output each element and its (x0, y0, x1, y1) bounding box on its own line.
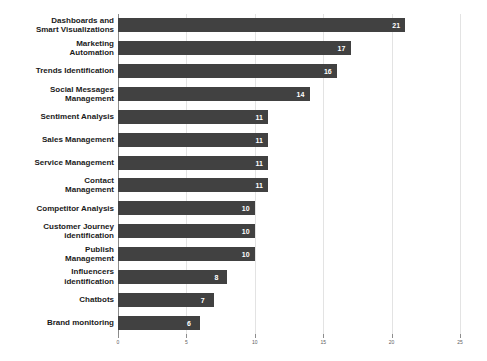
horizontal-bar-chart: 0510152025 Dashboards andSmart Visualiza… (0, 0, 487, 361)
category-label-line: Dashboards and (2, 16, 114, 26)
category-label: Customer Journeyidentification (2, 222, 114, 241)
bar (118, 224, 255, 238)
bar-value-label: 7 (201, 296, 205, 303)
bar-row: 7 (118, 293, 460, 307)
category-label-line: Customer Journey (2, 222, 114, 232)
bar-row: 11 (118, 110, 460, 124)
category-label: Influencersidentification (2, 267, 114, 286)
bar (118, 110, 268, 124)
x-axis-tick-label: 10 (252, 339, 258, 345)
x-axis-tick-label: 20 (389, 339, 395, 345)
category-label-line: Social Messages (2, 85, 114, 95)
category-label-line: Management (2, 254, 114, 264)
bar-value-label: 6 (187, 319, 191, 326)
x-axis-tick-mark (323, 334, 324, 338)
category-label-line: identification (2, 277, 114, 287)
bar-row: 6 (118, 316, 460, 330)
x-axis-tick-label: 25 (457, 339, 463, 345)
category-label-line: Service Management (2, 158, 114, 168)
x-axis-tick-mark (118, 334, 119, 338)
bar-row: 10 (118, 201, 460, 215)
bar (118, 293, 214, 307)
category-label: Dashboards andSmart Visualizations (2, 16, 114, 35)
bar (118, 247, 255, 261)
bar (118, 156, 268, 170)
category-label-line: Contact (2, 176, 114, 186)
bar-row: 10 (118, 247, 460, 261)
category-label-line: Automation (2, 48, 114, 58)
bar-row: 8 (118, 270, 460, 284)
category-label-line: Sentiment Analysis (2, 112, 114, 122)
bar-row: 10 (118, 224, 460, 238)
category-label-line: Management (2, 185, 114, 195)
bar (118, 18, 405, 32)
category-label: Social MessagesManagement (2, 85, 114, 104)
gridline (460, 14, 461, 334)
chart-bars: 2117161411111111101010876 (118, 14, 460, 334)
x-axis-tick-mark (460, 334, 461, 338)
category-label-line: Competitor Analysis (2, 204, 114, 214)
category-label-line: Smart Visualizations (2, 25, 114, 35)
category-label-line: Brand monitoring (2, 318, 114, 328)
bar-row: 16 (118, 64, 460, 78)
bar-value-label: 11 (255, 136, 262, 143)
x-axis-tick-mark (392, 334, 393, 338)
category-label-line: Marketing (2, 39, 114, 49)
bar (118, 270, 227, 284)
bar-row: 11 (118, 133, 460, 147)
category-label-line: Publish (2, 245, 114, 255)
bar-value-label: 8 (214, 273, 218, 280)
category-label: Trends Identification (2, 66, 114, 76)
bar-value-label: 17 (338, 45, 346, 52)
category-label-line: Trends Identification (2, 66, 114, 76)
category-label: MarketingAutomation (2, 39, 114, 58)
bar (118, 178, 268, 192)
bar (118, 41, 351, 55)
category-label: ContactManagement (2, 176, 114, 195)
bar-row: 17 (118, 41, 460, 55)
bar-value-label: 10 (242, 205, 250, 212)
bar-row: 21 (118, 18, 460, 32)
bar-value-label: 11 (255, 159, 262, 166)
category-label: Sentiment Analysis (2, 112, 114, 122)
category-axis-labels: Dashboards andSmart VisualizationsMarket… (0, 14, 114, 334)
x-axis-tick-mark (255, 334, 256, 338)
bar-value-label: 10 (242, 228, 250, 235)
category-label-line: Influencers (2, 267, 114, 277)
bar (118, 87, 310, 101)
category-label: Competitor Analysis (2, 204, 114, 214)
category-label: Brand monitoring (2, 318, 114, 328)
bar-value-label: 14 (297, 91, 305, 98)
category-label: PublishManagement (2, 245, 114, 264)
category-label-line: Sales Management (2, 135, 114, 145)
bar (118, 201, 255, 215)
category-label: Sales Management (2, 135, 114, 145)
bar-row: 14 (118, 87, 460, 101)
x-axis-tick-label: 15 (320, 339, 326, 345)
bar-value-label: 21 (392, 22, 400, 29)
x-axis-tick-mark (186, 334, 187, 338)
category-label: Chatbots (2, 295, 114, 305)
category-label: Service Management (2, 158, 114, 168)
bar-row: 11 (118, 156, 460, 170)
category-label-line: identification (2, 231, 114, 241)
bar-row: 11 (118, 178, 460, 192)
bar (118, 64, 337, 78)
x-axis-tick-label: 5 (185, 339, 188, 345)
bar-value-label: 16 (324, 68, 332, 75)
bar-value-label: 10 (242, 251, 250, 258)
x-axis-tick-label: 0 (117, 339, 120, 345)
category-label-line: Chatbots (2, 295, 114, 305)
bar-value-label: 11 (255, 182, 262, 189)
bar-value-label: 11 (255, 113, 262, 120)
bar (118, 133, 268, 147)
category-label-line: Management (2, 94, 114, 104)
